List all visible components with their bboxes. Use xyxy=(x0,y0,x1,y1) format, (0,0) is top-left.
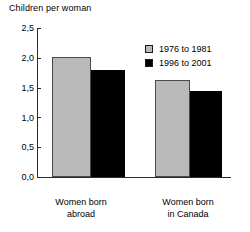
y-tick-label: 2,0 xyxy=(21,54,34,63)
category-label-group1: Women born abroad xyxy=(36,196,126,220)
category-label-line: in Canada xyxy=(143,208,233,220)
legend-entry-1996-to-2001: 1996 to 2001 xyxy=(145,56,212,70)
black-square-swatch-icon xyxy=(145,59,153,67)
x-axis-line xyxy=(37,177,231,178)
chart-legend: 1976 to 1981 1996 to 2001 xyxy=(145,42,212,70)
bar-chart: Children per woman 2,5 2,0 1,5 1,0 0,5 0… xyxy=(0,0,250,232)
legend-entry-1976-to-1981: 1976 to 1981 xyxy=(145,42,212,56)
legend-label: 1976 to 1981 xyxy=(159,45,212,54)
bar-group2-series-b xyxy=(190,91,222,177)
y-tick-label: 1,0 xyxy=(21,114,34,123)
bar-group1-series-b xyxy=(91,70,125,177)
gray-square-swatch-icon xyxy=(145,45,153,53)
category-label-line: Women born xyxy=(143,196,233,208)
bar-group1-series-a xyxy=(52,57,91,177)
y-axis-tick-labels: 2,5 2,0 1,5 1,0 0,5 0,0 xyxy=(0,0,34,232)
category-label-group2: Women born in Canada xyxy=(143,196,233,220)
category-label-line: abroad xyxy=(36,208,126,220)
y-tick-label: 0,0 xyxy=(21,173,34,182)
bar-group2-series-a xyxy=(155,80,190,177)
y-tick-label: 2,5 xyxy=(21,24,34,33)
legend-label: 1996 to 2001 xyxy=(159,59,212,68)
y-tick-label: 1,5 xyxy=(21,84,34,93)
category-label-line: Women born xyxy=(36,196,126,208)
y-tick-label: 0,5 xyxy=(21,143,34,152)
